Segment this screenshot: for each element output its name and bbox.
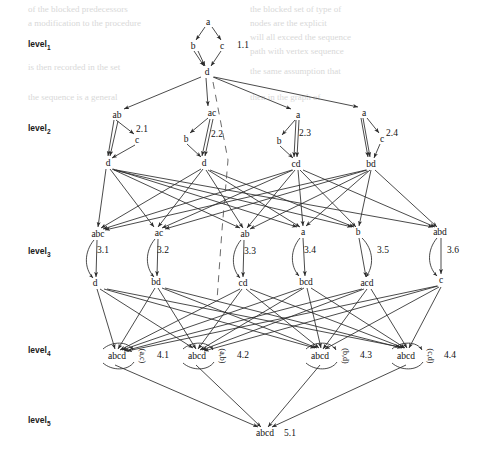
graph-node[interactable]: a [296,110,300,120]
level-label-5: level5 [28,415,51,427]
figure-canvas: of the blocked predecessors the blocked … [0,0,482,457]
cluster-label: 5.1 [284,428,296,438]
cluster-label: 3.1 [97,245,109,255]
cluster-label: 1.1 [237,40,249,50]
level-label-4: level4 [28,345,51,357]
graph-node[interactable]: cd [292,159,301,169]
cluster-label: 3.5 [377,245,389,255]
graph-node[interactable]: c [135,135,139,145]
graph-node[interactable]: d [205,67,210,77]
graph-node[interactable]: ac [155,228,163,238]
graph-node[interactable]: d [202,158,207,168]
graph-node[interactable]: abcd [188,351,206,361]
level-label-1: level1 [28,39,51,51]
cluster-label: 4.4 [444,350,456,360]
graph-node[interactable]: bd [366,159,376,169]
cluster-label: 3.2 [157,245,169,255]
cluster-label: 3.3 [244,246,256,256]
graph-node[interactable]: acd [360,278,373,288]
cluster-label: 2.4 [386,128,398,138]
cluster-label: 4.2 [237,350,249,360]
cluster-label: 2.2 [211,129,223,139]
graph-node[interactable]: d [93,278,98,288]
graph-node[interactable]: ab [241,229,250,239]
graph-node[interactable]: b [191,41,196,51]
graph-node[interactable]: abcd [256,428,274,438]
graph-node[interactable]: c [439,275,443,285]
level-label-3: level3 [28,246,51,258]
cluster-label: 2.1 [136,124,148,134]
cluster-label: 3.4 [304,245,316,255]
graph-node[interactable]: c [220,41,224,51]
cluster-label: 3.6 [447,245,459,255]
graph-node[interactable]: ac [208,108,216,118]
graph-node[interactable]: d [106,158,111,168]
pair-label: (a,c) [138,349,147,363]
graph-node[interactable]: abcd [397,351,415,361]
graph-node[interactable]: bd [151,277,161,287]
graph-node[interactable]: a [206,17,210,27]
cluster-label: 4.1 [157,350,169,360]
pair-label: (c,d) [426,349,435,364]
graph-node[interactable]: b [356,227,361,237]
graph-node[interactable]: ab [113,110,122,120]
graph-node[interactable]: cd [239,278,248,288]
graph-node[interactable]: a [362,108,366,118]
graph-node[interactable]: b [184,134,189,144]
graph-node[interactable]: a [301,227,305,237]
graph-node[interactable]: abc [91,229,104,239]
graph-node[interactable]: bcd [299,277,313,287]
cluster-label: 4.3 [360,350,372,360]
graph-node[interactable]: b [277,136,282,146]
graph-node[interactable]: abcd [108,351,126,361]
graph-node[interactable]: abcd [311,351,329,361]
pair-label: (b,d) [341,348,350,363]
graph-node[interactable]: abd [433,227,447,237]
level-label-2: level2 [28,123,51,135]
graph-node[interactable]: c [380,134,384,144]
pair-label: (a,b) [218,349,227,364]
cluster-label: 2.3 [299,128,311,138]
